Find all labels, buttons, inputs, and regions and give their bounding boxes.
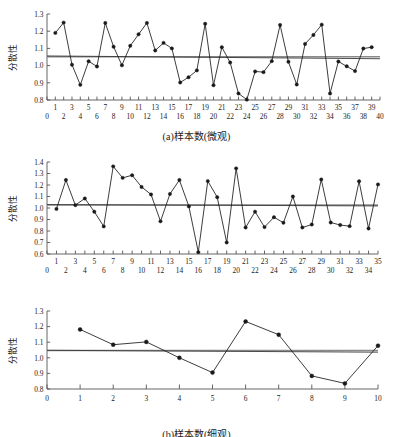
plot-area-c: 0.80.91.01.11.21.3012345678910分散性 <box>0 297 393 417</box>
svg-text:30: 30 <box>327 266 335 275</box>
svg-text:7: 7 <box>111 257 115 266</box>
svg-text:18: 18 <box>193 112 201 121</box>
svg-text:28: 28 <box>308 266 316 275</box>
svg-text:23: 23 <box>261 257 269 266</box>
svg-text:7: 7 <box>277 394 281 403</box>
svg-text:5: 5 <box>92 257 96 266</box>
svg-text:33: 33 <box>318 103 326 112</box>
svg-text:29: 29 <box>318 257 326 266</box>
svg-text:26: 26 <box>289 266 297 275</box>
svg-text:9: 9 <box>130 257 134 266</box>
plot-area-a: 0.80.91.01.11.21.31357911131517192123252… <box>0 0 393 130</box>
svg-text:6: 6 <box>102 266 106 275</box>
svg-text:11: 11 <box>147 257 154 266</box>
svg-text:0: 0 <box>45 394 49 403</box>
svg-text:2: 2 <box>64 266 68 275</box>
svg-text:12: 12 <box>143 112 151 121</box>
svg-text:21: 21 <box>218 103 226 112</box>
svg-text:15: 15 <box>168 103 176 112</box>
svg-text:21: 21 <box>242 257 250 266</box>
svg-text:13: 13 <box>166 257 174 266</box>
svg-text:14: 14 <box>160 112 168 121</box>
svg-text:1.2: 1.2 <box>34 181 44 190</box>
svg-text:26: 26 <box>260 112 268 121</box>
y-axis-label: 分散性 <box>7 337 18 364</box>
svg-text:25: 25 <box>280 257 288 266</box>
svg-text:1: 1 <box>55 257 59 266</box>
svg-text:10: 10 <box>374 394 382 403</box>
svg-text:0.7: 0.7 <box>34 238 44 247</box>
svg-text:1.3: 1.3 <box>34 307 44 316</box>
svg-text:12: 12 <box>157 266 165 275</box>
svg-text:30: 30 <box>293 112 301 121</box>
svg-text:1: 1 <box>53 103 57 112</box>
svg-text:24: 24 <box>270 266 278 275</box>
svg-text:35: 35 <box>335 103 343 112</box>
svg-text:34: 34 <box>365 266 373 275</box>
svg-text:25: 25 <box>251 103 259 112</box>
svg-text:0: 0 <box>45 112 49 121</box>
svg-text:4: 4 <box>178 394 182 403</box>
svg-text:0.8: 0.8 <box>34 96 44 105</box>
chart-svg-c: 0.80.91.01.11.21.3012345678910分散性 <box>0 297 393 417</box>
svg-text:0.9: 0.9 <box>34 215 44 224</box>
svg-text:33: 33 <box>355 257 363 266</box>
svg-text:0.8: 0.8 <box>34 385 44 394</box>
svg-text:22: 22 <box>251 266 259 275</box>
svg-text:36: 36 <box>343 112 351 121</box>
svg-text:32: 32 <box>310 112 318 121</box>
svg-text:15: 15 <box>185 257 193 266</box>
svg-text:13: 13 <box>152 103 160 112</box>
svg-text:22: 22 <box>226 112 234 121</box>
chart-panel-c: 0.80.91.01.11.21.3012345678910分散性 (c)样本数… <box>0 297 393 437</box>
chart-panel-a: 0.80.91.01.11.21.31357911131517192123252… <box>0 0 393 150</box>
svg-text:28: 28 <box>276 112 284 121</box>
svg-text:16: 16 <box>177 112 185 121</box>
svg-text:16: 16 <box>195 266 203 275</box>
svg-text:10: 10 <box>138 266 146 275</box>
svg-text:5: 5 <box>211 394 215 403</box>
plot-area-b: 0.60.70.80.91.01.11.21.31.41357911131517… <box>0 150 393 278</box>
chart-svg-a: 0.80.91.01.11.21.31357911131517192123252… <box>0 0 393 130</box>
svg-text:1.0: 1.0 <box>34 61 44 70</box>
svg-text:38: 38 <box>360 112 368 121</box>
svg-text:24: 24 <box>243 112 251 121</box>
svg-text:2: 2 <box>62 112 66 121</box>
svg-text:34: 34 <box>326 112 334 121</box>
svg-text:20: 20 <box>232 266 240 275</box>
svg-text:5: 5 <box>87 103 91 112</box>
svg-text:9: 9 <box>343 394 347 403</box>
svg-text:27: 27 <box>268 103 276 112</box>
svg-text:1.3: 1.3 <box>34 169 44 178</box>
svg-text:1.1: 1.1 <box>34 338 44 347</box>
svg-text:1.1: 1.1 <box>34 44 44 53</box>
svg-text:8: 8 <box>112 112 116 121</box>
svg-text:1.0: 1.0 <box>34 354 44 363</box>
svg-text:31: 31 <box>301 103 309 112</box>
svg-text:17: 17 <box>204 257 212 266</box>
svg-text:6: 6 <box>95 112 99 121</box>
svg-text:32: 32 <box>346 266 354 275</box>
svg-text:4: 4 <box>83 266 87 275</box>
svg-text:19: 19 <box>223 257 231 266</box>
svg-text:17: 17 <box>185 103 193 112</box>
svg-text:11: 11 <box>135 103 142 112</box>
svg-text:0.6: 0.6 <box>34 250 44 259</box>
svg-text:40: 40 <box>376 112 384 121</box>
svg-text:8: 8 <box>121 266 125 275</box>
svg-text:10: 10 <box>127 112 135 121</box>
svg-text:0: 0 <box>45 266 49 275</box>
y-axis-label: 分散性 <box>7 195 18 222</box>
svg-text:8: 8 <box>310 394 314 403</box>
svg-text:27: 27 <box>299 257 307 266</box>
svg-text:20: 20 <box>210 112 218 121</box>
svg-text:23: 23 <box>235 103 243 112</box>
svg-text:2: 2 <box>111 394 115 403</box>
svg-text:1.0: 1.0 <box>34 204 44 213</box>
svg-text:31: 31 <box>336 257 344 266</box>
svg-text:18: 18 <box>214 266 222 275</box>
svg-text:4: 4 <box>78 112 82 121</box>
chart-panel-b: 0.60.70.80.91.01.11.21.31.41357911131517… <box>0 150 393 297</box>
svg-text:1.1: 1.1 <box>34 192 44 201</box>
svg-text:1: 1 <box>78 394 82 403</box>
